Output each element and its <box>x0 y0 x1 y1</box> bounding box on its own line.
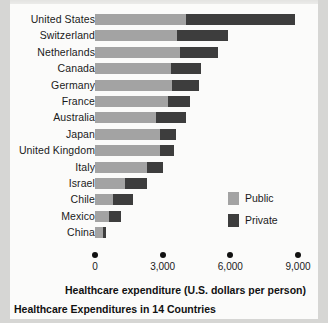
bar-segment-public <box>95 112 156 123</box>
category-label-germany: Germany <box>51 78 95 94</box>
chart-row: Japan <box>0 127 328 143</box>
bar-segment-public <box>95 145 160 156</box>
legend-swatch-private <box>228 214 239 227</box>
bar-segment-private <box>125 178 146 189</box>
axis-tick-label: 9,000 <box>285 261 310 272</box>
bar-segment-private <box>160 145 174 156</box>
legend-item-public: Public <box>228 190 308 212</box>
bar-segment-private <box>171 63 201 74</box>
bar-segment-private <box>147 162 163 173</box>
bar-segment-public <box>95 227 103 238</box>
figure-caption: Healthcare Expenditures in 14 Countries <box>14 303 216 315</box>
bar-segment-public <box>95 96 168 107</box>
chart-row: Germany <box>0 78 328 94</box>
chart-row: Switzerland <box>0 28 328 44</box>
category-label-canada: Canada <box>58 61 95 77</box>
bar-segment-public <box>95 162 147 173</box>
bar-segment-private <box>186 14 294 25</box>
bar-segment-public <box>95 30 177 41</box>
category-label-france: France <box>62 94 95 110</box>
bar-segment-public <box>95 14 186 25</box>
chart-row: Netherlands <box>0 45 328 61</box>
chart-row: Canada <box>0 61 328 77</box>
chart-legend: PublicPrivate <box>228 190 308 234</box>
bar-segment-private <box>109 211 121 222</box>
x-axis-title: Healthcare expenditure (U.S. dollars per… <box>0 284 318 296</box>
axis-tick-dot <box>295 252 301 258</box>
bar-segment-public <box>95 211 109 222</box>
axis-tick-label: 6,000 <box>218 261 243 272</box>
category-label-chile: Chile <box>71 192 95 208</box>
bar-segment-private <box>160 129 176 140</box>
axis-tick-dot <box>227 252 233 258</box>
bar-segment-private <box>113 194 133 205</box>
legend-item-private: Private <box>228 212 308 234</box>
category-label-switzerland: Switzerland <box>40 28 95 44</box>
category-label-united-states: United States <box>31 12 95 28</box>
bar-segment-public <box>95 80 172 91</box>
legend-label: Public <box>245 192 274 204</box>
legend-swatch-public <box>228 192 239 205</box>
healthcare-expenditure-chart: United StatesSwitzerlandNetherlandsCanad… <box>0 0 328 323</box>
category-label-china: China <box>67 225 95 241</box>
category-label-australia: Australia <box>53 110 95 126</box>
chart-row: Australia <box>0 110 328 126</box>
chart-row: United States <box>0 12 328 28</box>
category-label-italy: Italy <box>75 160 95 176</box>
category-label-netherlands: Netherlands <box>37 45 95 61</box>
bar-segment-public <box>95 194 113 205</box>
bar-segment-public <box>95 63 171 74</box>
x-axis: 03,0006,0009,000 <box>0 252 328 282</box>
chart-row: France <box>0 94 328 110</box>
legend-label: Private <box>245 214 278 226</box>
bar-segment-private <box>180 47 218 58</box>
bar-segment-private <box>172 80 199 91</box>
axis-tick-label: 3,000 <box>150 261 175 272</box>
axis-tick-dot <box>160 252 166 258</box>
bar-segment-private <box>156 112 186 123</box>
bar-segment-public <box>95 178 125 189</box>
bar-segment-public <box>95 47 180 58</box>
category-label-japan: Japan <box>66 127 95 143</box>
bar-segment-public <box>95 129 160 140</box>
axis-tick-label: 0 <box>92 261 98 272</box>
bar-segment-private <box>103 227 106 238</box>
category-label-israel: Israel <box>69 176 95 192</box>
category-label-mexico: Mexico <box>61 209 95 225</box>
axis-tick-dot <box>92 252 98 258</box>
chart-row: Italy <box>0 160 328 176</box>
chart-row: United Kingdom <box>0 143 328 159</box>
bar-segment-private <box>168 96 189 107</box>
category-label-united-kingdom: United Kingdom <box>19 143 95 159</box>
bar-segment-private <box>177 30 228 41</box>
